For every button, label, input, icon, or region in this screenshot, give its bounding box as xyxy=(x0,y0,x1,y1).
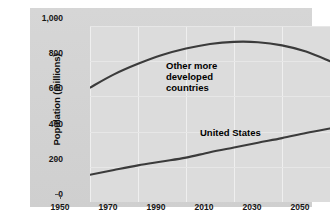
y-axis-tick-mark xyxy=(55,159,59,160)
y-axis-tick-mark xyxy=(55,88,59,89)
series-label-other-more-developed-countries: Other more developed countries xyxy=(166,60,217,94)
chart-panel: Population (millions) 02004006008001,000… xyxy=(30,8,312,207)
x-axis-tick-label: 2050 xyxy=(280,203,320,212)
y-axis-tick-mark xyxy=(55,124,59,125)
y-axis-tick-mark xyxy=(55,194,59,195)
y-axis-tick-mark xyxy=(55,18,59,19)
x-axis-tick-label: 2030 xyxy=(232,203,272,212)
x-axis-tick-label: 1990 xyxy=(136,203,176,212)
x-axis-tick-label: 1950 xyxy=(40,203,80,212)
x-axis-tick-label: 2010 xyxy=(184,203,224,212)
series-label-united-states: United States xyxy=(200,127,261,138)
y-axis-tick-mark xyxy=(55,53,59,54)
plot-area: Other more developed countries United St… xyxy=(90,26,330,202)
x-axis-tick-mark xyxy=(60,195,61,199)
x-axis-tick-label: 1970 xyxy=(88,203,128,212)
series-lines xyxy=(90,26,330,202)
